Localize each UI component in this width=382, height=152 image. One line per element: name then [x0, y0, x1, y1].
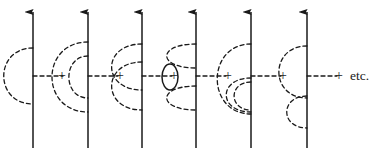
diagram-term-6 [279, 12, 337, 148]
inner-lower-arc-2 [234, 82, 251, 110]
etc-label: etc. [350, 68, 369, 83]
lower-arc [287, 96, 307, 128]
plus-sign-1: + [58, 68, 66, 83]
diagram-term-1 [4, 12, 63, 148]
outer-arc [217, 44, 251, 114]
plus-sign-4: + [224, 68, 232, 83]
outer-arc [4, 48, 33, 104]
inner-arc [69, 56, 88, 98]
plus-sign-6: + [335, 68, 343, 83]
feynman-diagram-figure: ++++++etc. [0, 0, 382, 152]
feynman-diagram-canvas: ++++++etc. [0, 0, 382, 152]
